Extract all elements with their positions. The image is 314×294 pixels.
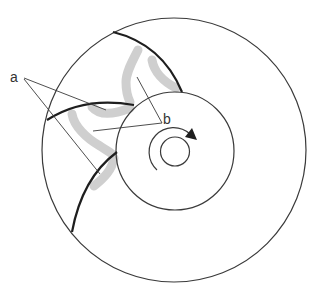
rotor-hub-circle [116, 92, 234, 210]
leader-b-2 [93, 123, 162, 131]
label-a: a [10, 69, 18, 85]
leader-b-1 [137, 77, 162, 123]
deposit-left-band [72, 114, 112, 154]
deposit-mid-crescent [92, 107, 130, 113]
shaft-circle [161, 137, 190, 166]
deposit-upper-left [126, 50, 138, 102]
rotation-arrowhead-icon [185, 128, 197, 140]
deposits [72, 50, 176, 186]
label-b: b [163, 111, 171, 127]
outer-casing-circle [42, 18, 306, 282]
diagram-canvas: a b [0, 0, 314, 294]
